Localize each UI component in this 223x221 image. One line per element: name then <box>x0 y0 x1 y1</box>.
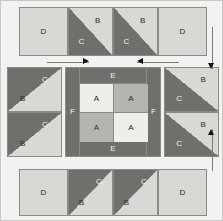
arrowhead-right-icon <box>83 58 89 64</box>
sashing-f-left: F <box>66 68 80 156</box>
sashing-e-bottom: E <box>80 140 146 156</box>
patch-label-f: F <box>70 108 75 116</box>
patch-label-f: F <box>151 108 156 116</box>
right-hst-top: B C <box>164 67 219 112</box>
top-square-left: D <box>19 7 68 56</box>
triangle-dark <box>114 8 157 55</box>
top-hst-2: B C <box>113 7 158 56</box>
triangle-dark <box>165 68 218 111</box>
patch-label-d: D <box>41 189 47 197</box>
arrow-right-inward <box>137 57 179 66</box>
four-patch: A A A A <box>80 84 148 142</box>
patch-label-a: A <box>94 124 100 132</box>
bottom-square-left: D <box>19 169 68 216</box>
triangle-dark <box>8 68 61 111</box>
patch-label-a: A <box>94 95 100 103</box>
triangle-dark <box>69 8 112 55</box>
arrow-left-inward <box>47 57 89 66</box>
quilt-block-diagram: D B C B C D C B C B <box>0 0 223 221</box>
sashing-e-top: E <box>80 68 146 84</box>
patch-label-a: A <box>128 124 134 132</box>
patch-label-e: E <box>110 145 116 153</box>
bottom-hst-2: C B <box>113 169 158 216</box>
patch-label-e: E <box>110 72 116 80</box>
triangle-dark <box>69 170 112 215</box>
four-patch-a-bl: A <box>80 113 114 142</box>
four-patch-a-br: A <box>114 113 148 142</box>
triangle-dark <box>114 170 157 215</box>
patch-label-d: D <box>180 28 186 36</box>
patch-label-a: A <box>128 95 134 103</box>
bottom-square-right: D <box>158 169 207 216</box>
four-patch-a-tl: A <box>80 84 114 113</box>
arrow-shaft <box>137 62 179 63</box>
arrow-top-inward <box>207 27 216 69</box>
center-unit: E E F F A A A A <box>65 67 161 157</box>
arrowhead-up-icon <box>208 129 214 135</box>
bottom-hst-1: C B <box>68 169 113 216</box>
arrowhead-left-icon <box>137 58 143 64</box>
arrow-shaft <box>212 129 213 171</box>
triangle-dark <box>8 113 61 156</box>
four-patch-a-tr: A <box>114 84 148 113</box>
top-square-right: D <box>158 7 207 56</box>
left-hst-bottom: C B <box>7 112 62 157</box>
patch-label-d: D <box>180 189 186 197</box>
sashing-f-right: F <box>146 68 160 156</box>
arrowhead-down-icon <box>208 63 214 69</box>
arrow-bottom-inward <box>207 129 216 171</box>
left-hst-top: C B <box>7 67 62 112</box>
patch-label-d: D <box>41 28 47 36</box>
top-hst-1: B C <box>68 7 113 56</box>
